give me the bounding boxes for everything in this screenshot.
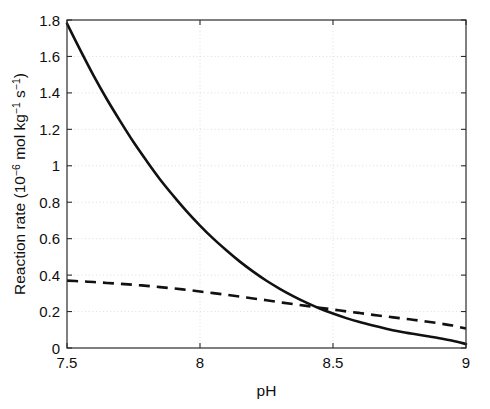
y-tick-label: 1.4 (39, 84, 60, 101)
x-tick-label: 9 (462, 354, 470, 371)
y-axis-title-exponent-1: −6 (10, 164, 22, 176)
reaction-rate-line-chart: 7.588.59 00.20.40.60.811.21.41.61.8 pH R… (0, 0, 490, 409)
y-axis-title-suffix: ) (11, 73, 28, 78)
y-axis-title-mid-2: s (11, 90, 28, 102)
x-axis-title: pH (257, 382, 277, 399)
y-tick-label: 0.4 (39, 267, 60, 284)
chart-figure: 7.588.59 00.20.40.60.811.21.41.61.8 pH R… (0, 0, 490, 409)
y-tick-label: 0.6 (39, 230, 60, 247)
y-tick-label: 0.2 (39, 303, 60, 320)
y-tick-label: 1.8 (39, 12, 60, 29)
x-tick-label: 7.5 (57, 354, 78, 371)
y-tick-label: 1 (52, 157, 60, 174)
y-axis-title-prefix: Reaction rate (10 (11, 176, 28, 295)
y-tick-label: 1.6 (39, 48, 60, 65)
y-tick-label: 0 (52, 340, 60, 357)
y-axis-title-mid: mol kg (11, 114, 28, 164)
y-axis-title-exponent-3: −1 (10, 78, 22, 90)
x-tick-label: 8.5 (323, 354, 344, 371)
y-tick-label: 0.8 (39, 194, 60, 211)
x-tick-label: 8 (196, 354, 204, 371)
y-axis-title-exponent-2: −1 (10, 102, 22, 114)
y-tick-label: 1.2 (39, 121, 60, 138)
